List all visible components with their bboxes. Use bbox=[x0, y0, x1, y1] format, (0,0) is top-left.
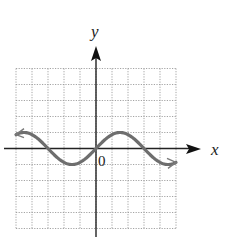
origin-label: 0 bbox=[98, 153, 106, 169]
graph: x y 0 bbox=[0, 0, 232, 246]
y-axis-label: y bbox=[89, 22, 99, 41]
x-axis-label: x bbox=[210, 140, 219, 159]
